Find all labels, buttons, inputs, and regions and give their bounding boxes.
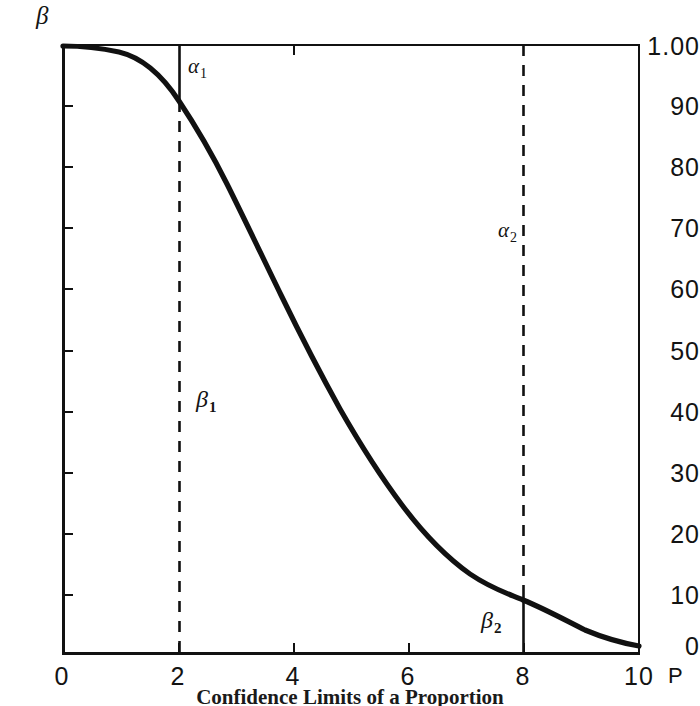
annotation-beta-1-base: β: [196, 386, 208, 412]
annotation-alpha-1: α1: [188, 54, 207, 82]
figure-container: β 1.00 90 80 70 60 50 40 30 20 10 0 0 2 …: [0, 0, 700, 706]
annotation-alpha-2-base: α: [498, 218, 509, 242]
annotation-beta-1: β1: [196, 386, 216, 416]
annotation-alpha-2: α2: [498, 218, 517, 246]
oc-curve: [63, 46, 639, 646]
annotation-alpha-1-subscript: 1: [199, 66, 207, 81]
annotation-beta-1-subscript: 1: [208, 399, 217, 415]
annotation-alpha-1-base: α: [188, 54, 199, 78]
curve-layer: [0, 0, 700, 706]
annotation-beta-2-subscript: 2: [493, 620, 502, 636]
annotation-alpha-2-subscript: 2: [509, 230, 517, 245]
annotation-beta-2-base: β: [481, 607, 493, 633]
annotation-beta-2: β2: [481, 607, 501, 637]
figure-caption: Confidence Limits of a Proportion: [0, 684, 700, 706]
